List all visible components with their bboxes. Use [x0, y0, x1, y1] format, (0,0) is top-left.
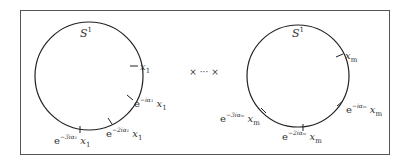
label-x1-2: e−2iα₁ x1	[106, 126, 142, 142]
right-circle-name: S1	[292, 26, 304, 40]
label-x1-3: e−3iα₁ x1	[54, 133, 90, 149]
product-operator: × ··· ×	[189, 67, 218, 77]
left-circle-name: S1	[80, 26, 92, 40]
label-xm-2: e−2iαₘ xm	[282, 129, 322, 145]
left-circle	[35, 22, 143, 130]
label-xm-1: e−iαₘ xm	[346, 102, 382, 118]
left-circle-group: S1 x1 e−iα₁ x1 e−2iα₁ x1 e−3iα₁ x1	[35, 22, 167, 149]
right-circle-group: S1 xm e−iαₘ xm e−2iαₘ xm e−3iαₘ xm	[220, 25, 382, 145]
label-x1: x1	[140, 61, 150, 75]
tick-xm	[336, 54, 343, 57]
product-of-circles-diagram: S1 x1 e−iα₁ x1 e−2iα₁ x1 e−3iα₁ x1 × ···…	[0, 0, 409, 160]
label-x1-1: e−iα₁ x1	[134, 96, 167, 112]
right-circle	[247, 25, 349, 127]
label-xm-3: e−3iαₘ xm	[220, 111, 260, 127]
tick-x1-1	[127, 95, 133, 100]
tick-x1-2	[108, 118, 112, 124]
